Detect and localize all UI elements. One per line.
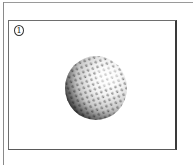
outer-frame-left-border [3, 2, 4, 165]
figure-canvas: 1 [0, 0, 193, 165]
outer-frame-top-border [3, 2, 193, 3]
illustration-panel: 1 [8, 20, 177, 150]
panel-number-badge: 1 [14, 25, 24, 36]
golf-ball-icon [64, 55, 128, 121]
